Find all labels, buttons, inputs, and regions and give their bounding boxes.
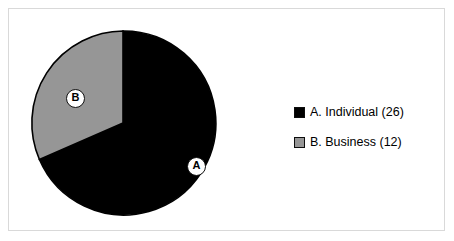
legend-swatch-business — [294, 137, 305, 148]
pie-label-a: A — [187, 157, 206, 176]
legend-label-business: B. Business (12) — [310, 135, 402, 149]
pie-chart-plot-area: A B — [9, 9, 269, 230]
chart-frame: A B A. Individual (26) B. Business (12) — [8, 8, 445, 231]
legend-swatch-individual — [294, 107, 305, 118]
legend-label-individual: A. Individual (26) — [310, 105, 404, 119]
legend-item-individual[interactable]: A. Individual (26) — [294, 97, 444, 127]
chart-legend: A. Individual (26) B. Business (12) — [294, 97, 444, 157]
pie-chart-graphic — [24, 24, 254, 219]
legend-item-business[interactable]: B. Business (12) — [294, 127, 444, 157]
pie-label-b: B — [66, 89, 85, 108]
